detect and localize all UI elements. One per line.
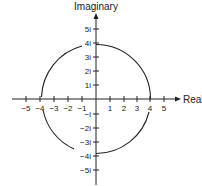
tick-label: 5 — [162, 104, 167, 113]
tick-label: 3i — [85, 53, 91, 62]
circle-arc-lower-right — [96, 112, 149, 154]
tick-label: −5 — [21, 104, 31, 113]
real-tick-labels: −5 −4 −3 −2 −1 1 2 3 4 5 — [21, 104, 166, 113]
circle-arc-upper-right — [96, 45, 151, 100]
tick-label: 1 — [108, 104, 113, 113]
imaginary-axis-arrow-icon — [94, 13, 99, 19]
tick-label: 1i — [85, 81, 91, 90]
tick-label: 2i — [85, 67, 91, 76]
real-axis-title: Real — [183, 94, 202, 105]
tick-label: −2 — [63, 104, 73, 113]
circle-arc-lower-left — [43, 110, 74, 149]
tick-label: −3i — [80, 138, 91, 147]
tick-label: 4 — [148, 104, 153, 113]
complex-plane-diagram: Imaginary Real −5 −4 −3 −2 −1 1 2 3 4 5 … — [0, 0, 202, 186]
tick-label: 4i — [85, 39, 91, 48]
imaginary-axis-title: Imaginary — [74, 1, 118, 12]
tick-label: 2 — [122, 104, 127, 113]
real-axis-arrow-icon — [175, 97, 181, 102]
tick-label: −i — [85, 110, 92, 119]
tick-label: 5i — [85, 25, 91, 34]
circle-arc-upper-left — [42, 46, 83, 97]
tick-label: −2i — [80, 124, 91, 133]
tick-label: −5i — [80, 166, 91, 175]
tick-label: 3 — [135, 104, 140, 113]
tick-label: −4 — [35, 104, 45, 113]
tick-label: −4i — [80, 152, 91, 161]
tick-label: −3 — [49, 104, 59, 113]
